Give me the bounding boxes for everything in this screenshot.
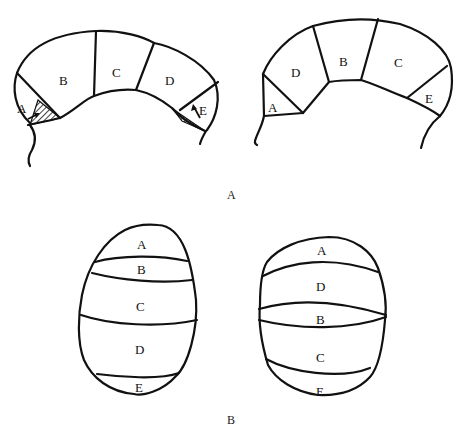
panel-b-right-diagram: A D B C E [259, 237, 386, 399]
band-label-e: E [316, 384, 324, 399]
figure: A B C D E A D B C E A A B C D E [0, 0, 462, 431]
band-label-a: A [317, 243, 327, 258]
segment-label-c: C [112, 65, 121, 80]
segment-label-a: A [17, 101, 27, 116]
panel-a-right-diagram: A D B C E [255, 19, 452, 148]
segment-label-e: E [425, 91, 433, 106]
band-label-b: B [316, 312, 325, 327]
panel-a-left-diagram: A B C D E [15, 31, 218, 166]
band-label-e: E [135, 380, 143, 395]
segment-label-c: C [394, 55, 403, 70]
segment-label-b: B [339, 54, 348, 69]
segment-label-b: B [59, 73, 68, 88]
figure-canvas: A B C D E A D B C E A A B C D E [0, 0, 462, 431]
band-label-d: D [135, 342, 144, 357]
band-label-c: C [316, 350, 325, 365]
segment-label-d: D [165, 73, 174, 88]
caption-b: B [227, 413, 235, 427]
segment-label-e: E [199, 103, 207, 118]
segment-label-a: A [268, 100, 278, 115]
band-label-c: C [136, 299, 145, 314]
band-label-d: D [316, 279, 325, 294]
band-label-a: A [137, 237, 147, 252]
caption-a: A [227, 188, 236, 202]
band-label-b: B [137, 262, 146, 277]
panel-b-left-diagram: A B C D E [79, 225, 197, 395]
segment-label-d: D [291, 65, 300, 80]
